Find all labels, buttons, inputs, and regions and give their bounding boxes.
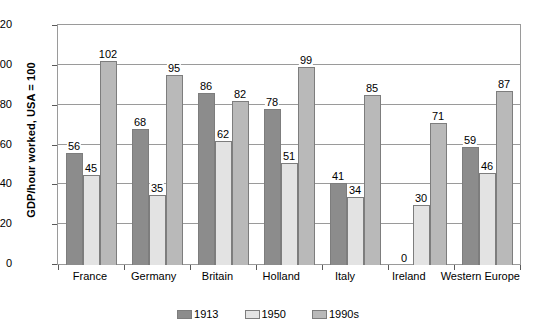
bar-value-label: 35 [150,183,164,194]
bar-slot: 78 [264,25,281,265]
bar-value-label: 86 [199,81,213,92]
bar-slot: 68 [132,25,149,265]
bar-groups: 5645102683595866282785199413485030715946… [58,25,520,265]
bar-1950-italy[interactable] [347,197,364,265]
bar-value-label: 82 [233,89,247,100]
x-axis-category-label: France [58,270,122,283]
bar-1950-britain[interactable] [215,141,232,265]
bar-value-label: 68 [133,117,147,128]
bar-group: 594687 [454,25,520,265]
chart-legend: 191319501990s [0,309,536,320]
legend-label: 1950 [262,309,286,320]
bar-value-label: 30 [414,193,428,204]
bar-1990s-britain[interactable] [232,101,249,265]
legend-item[interactable]: 1950 [245,309,286,320]
bar-value-label: 62 [216,129,230,140]
bar-slot: 102 [100,25,117,265]
bar-1913-holland[interactable] [264,109,281,265]
bar-value-label: 51 [282,151,296,162]
bar-value-label: 95 [167,63,181,74]
legend-swatch-icon [312,310,327,319]
y-tick-mark [52,25,57,26]
bar-slot: 87 [496,25,513,265]
x-tick-mark [520,265,521,270]
bar-value-label: 0 [400,253,408,264]
bar-1913-france[interactable] [66,153,83,265]
bar-value-label: 34 [348,185,362,196]
y-axis-title: GDP/hour worked, USA = 100 [25,15,37,265]
bar-1950-western-europe[interactable] [479,173,496,265]
bar-value-label: 99 [299,55,313,66]
bar-slot: 56 [66,25,83,265]
bar-slot: 35 [149,25,166,265]
legend-item[interactable]: 1913 [177,309,218,320]
y-tick-label: 80 [0,99,12,110]
bar-chart: GDP/hour worked, USA = 100 0204060801001… [0,0,536,330]
y-tick-mark [52,65,57,66]
bar-1990s-ireland[interactable] [430,123,447,265]
x-axis-category-label: Britain [186,270,250,283]
y-tick-mark [52,184,57,185]
bar-1990s-france[interactable] [100,61,117,265]
y-tick-label: 40 [0,178,12,189]
bar-slot: 95 [166,25,183,265]
bar-1990s-western-europe[interactable] [496,91,513,265]
bar-value-label: 41 [331,171,345,182]
bar-slot: 46 [479,25,496,265]
bar-slot: 86 [198,25,215,265]
bar-1990s-germany[interactable] [166,75,183,265]
bar-value-label: 102 [98,49,118,60]
bar-value-label: 45 [84,163,98,174]
y-tick-mark [52,264,57,265]
legend-swatch-icon [245,310,260,319]
bar-slot: 51 [281,25,298,265]
bar-value-label: 56 [67,141,81,152]
bar-slot: 30 [413,25,430,265]
bar-1950-germany[interactable] [149,195,166,265]
x-axis-category-label: Italy [313,270,377,283]
x-axis-category-label: Germany [122,270,186,283]
bar-slot: 82 [232,25,249,265]
bar-slot: 41 [330,25,347,265]
bar-slot: 34 [347,25,364,265]
bar-1913-germany[interactable] [132,129,149,265]
x-axis-labels: FranceGermanyBritainHollandItalyIrelandW… [58,270,520,283]
bar-slot: 71 [430,25,447,265]
y-tick-label: 20 [0,218,12,229]
bar-slot: 45 [83,25,100,265]
bar-group: 683595 [124,25,190,265]
bar-value-label: 85 [365,83,379,94]
y-tick-mark [52,105,57,106]
bar-1950-france[interactable] [83,175,100,265]
bar-1913-britain[interactable] [198,93,215,265]
bar-1913-western-europe[interactable] [462,147,479,265]
bar-slot: 99 [298,25,315,265]
bar-1990s-italy[interactable] [364,95,381,265]
bar-slot: 59 [462,25,479,265]
y-tick-label: 60 [0,139,12,150]
legend-label: 1913 [194,309,218,320]
bar-slot: 85 [364,25,381,265]
bar-value-label: 87 [497,79,511,90]
bar-1950-ireland[interactable] [413,205,430,265]
legend-item[interactable]: 1990s [312,309,359,320]
bar-value-label: 78 [265,97,279,108]
bar-1990s-holland[interactable] [298,67,315,265]
bar-value-label: 46 [480,161,494,172]
y-tick-mark [52,145,57,146]
bar-value-label: 59 [463,135,477,146]
bar-slot: 62 [215,25,232,265]
y-tick-label: 120 [0,19,12,30]
x-axis-category-label: Western Europe [441,270,520,283]
bar-group: 413485 [322,25,388,265]
bar-group: 785199 [256,25,322,265]
bar-1913-italy[interactable] [330,183,347,265]
bar-1950-holland[interactable] [281,163,298,265]
legend-label: 1990s [329,309,359,320]
bar-group: 866282 [190,25,256,265]
y-tick-mark [52,224,57,225]
bar-group: 5645102 [58,25,124,265]
x-axis-category-label: Ireland [377,270,441,283]
bar-value-label: 71 [431,111,445,122]
legend-swatch-icon [177,310,192,319]
